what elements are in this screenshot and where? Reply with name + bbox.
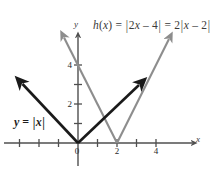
curve-h-left-branch — [64, 38, 117, 144]
x-tick-label-0: 0 — [71, 146, 83, 156]
x-tick-label-2: 2 — [111, 146, 123, 156]
x-axis-label: x — [196, 134, 200, 144]
y-tick-label-4: 4 — [62, 60, 72, 70]
curve-h-right-branch — [117, 39, 169, 143]
curve-h-absolute-value — [64, 38, 169, 144]
curve-y-right-branch — [78, 85, 139, 143]
equation-label-h: h(x) = |2x – 4| = 2|x – 2| — [93, 19, 211, 31]
curve-y-left-branch — [23, 84, 79, 143]
y-axis-label: y — [74, 19, 78, 29]
absolute-value-graph-figure: h(x) = |2x – 4| = 2|x – 2| y = |x| y x 0… — [0, 0, 211, 178]
x-tick-label-4: 4 — [150, 146, 162, 156]
y-tick-label-2: 2 — [62, 99, 72, 109]
equation-label-y: y = |x| — [14, 115, 45, 130]
